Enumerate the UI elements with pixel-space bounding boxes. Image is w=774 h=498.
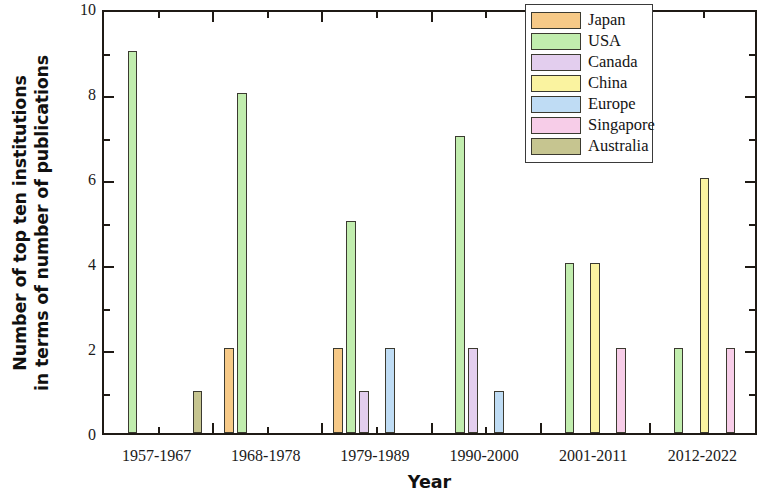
y-axis-tick bbox=[104, 351, 114, 353]
x-axis-tick-top bbox=[431, 12, 433, 22]
bar bbox=[674, 348, 684, 433]
legend-item: China bbox=[531, 73, 646, 94]
legend-swatch bbox=[531, 75, 581, 92]
legend-swatch bbox=[531, 33, 581, 50]
y-tick-label: 10 bbox=[68, 1, 96, 19]
x-tick-label: 1990-2000 bbox=[449, 447, 518, 465]
y-axis-tick-labels: 0246810 bbox=[62, 0, 96, 498]
y-axis-tick-right bbox=[745, 351, 755, 353]
x-axis-tick-top bbox=[485, 12, 487, 18]
x-axis-title: Year bbox=[102, 472, 757, 492]
y-axis-tick-right bbox=[749, 54, 755, 56]
y-axis-title: Number of top ten institutions in terms … bbox=[0, 0, 62, 445]
bar bbox=[128, 51, 138, 434]
y-axis-tick-right bbox=[745, 266, 755, 268]
bar bbox=[224, 348, 234, 433]
bar bbox=[237, 93, 247, 433]
legend-item: Japan bbox=[531, 10, 646, 31]
bar bbox=[590, 263, 600, 433]
x-tick-label: 2001-2011 bbox=[559, 447, 628, 465]
x-axis-tick-labels: 1957-19671968-19781979-19891990-20002001… bbox=[102, 447, 757, 471]
x-tick-label: 1979-1989 bbox=[340, 447, 409, 465]
legend-item: Europe bbox=[531, 94, 646, 115]
plot-area bbox=[102, 10, 757, 435]
bar bbox=[565, 263, 575, 433]
bar bbox=[700, 178, 710, 433]
y-axis-title-line1: Number of top ten institutions bbox=[9, 54, 31, 390]
bar bbox=[616, 348, 626, 433]
bar bbox=[385, 348, 395, 433]
y-axis-tick-right bbox=[745, 181, 755, 183]
y-tick-label: 6 bbox=[68, 171, 96, 189]
legend-swatch bbox=[531, 138, 581, 155]
legend-label: USA bbox=[588, 33, 621, 50]
x-axis-tick-top bbox=[212, 12, 214, 22]
y-axis-tick bbox=[104, 181, 114, 183]
x-axis-tick-top bbox=[376, 12, 378, 18]
legend: JapanUSACanadaChinaEuropeSingaporeAustra… bbox=[525, 4, 653, 163]
y-axis-tick-right bbox=[749, 139, 755, 141]
y-axis-tick bbox=[104, 224, 110, 226]
y-axis-tick-right bbox=[749, 224, 755, 226]
legend-label: Japan bbox=[588, 12, 626, 29]
legend-label: China bbox=[588, 75, 627, 92]
y-axis-tick bbox=[104, 54, 110, 56]
bar-chart-figure: Number of top ten institutions in terms … bbox=[0, 0, 774, 498]
legend-swatch bbox=[531, 96, 581, 113]
x-axis-tick-top bbox=[703, 12, 705, 18]
x-axis-tick-top bbox=[321, 12, 323, 22]
bar bbox=[494, 391, 504, 434]
plot-inner bbox=[104, 12, 755, 433]
x-axis-tick bbox=[431, 423, 433, 433]
x-axis-tick bbox=[649, 423, 651, 433]
legend-label: Australia bbox=[588, 138, 648, 155]
legend-item: Singapore bbox=[531, 115, 646, 136]
y-tick-label: 0 bbox=[68, 426, 96, 444]
y-axis-tick bbox=[104, 309, 110, 311]
bar bbox=[346, 221, 356, 434]
x-axis-tick bbox=[267, 427, 269, 433]
y-axis-tick-right bbox=[749, 309, 755, 311]
legend-item: Canada bbox=[531, 52, 646, 73]
x-tick-label: 1968-1978 bbox=[231, 447, 300, 465]
y-axis-title-line2: in terms of number of publications bbox=[31, 54, 53, 390]
legend-swatch bbox=[531, 12, 581, 29]
y-axis-tick bbox=[104, 96, 114, 98]
legend-item: USA bbox=[531, 31, 646, 52]
x-axis-tick bbox=[321, 423, 323, 433]
legend-label: Canada bbox=[588, 54, 637, 71]
bar bbox=[193, 391, 203, 434]
legend-swatch bbox=[531, 117, 581, 134]
bar bbox=[333, 348, 343, 433]
y-axis-tick bbox=[104, 139, 110, 141]
bar bbox=[468, 348, 478, 433]
bar bbox=[359, 391, 369, 434]
legend-swatch bbox=[531, 54, 581, 71]
x-axis-tick bbox=[158, 427, 160, 433]
x-axis-tick bbox=[485, 427, 487, 433]
x-tick-label: 1957-1967 bbox=[122, 447, 191, 465]
y-axis-tick bbox=[104, 266, 114, 268]
x-tick-label: 2012-2022 bbox=[668, 447, 737, 465]
legend-label: Singapore bbox=[588, 117, 655, 134]
x-axis-tick bbox=[212, 423, 214, 433]
y-tick-label: 8 bbox=[68, 86, 96, 104]
x-axis-tick bbox=[540, 423, 542, 433]
y-tick-label: 4 bbox=[68, 256, 96, 274]
y-axis-tick-right bbox=[749, 394, 755, 396]
y-axis-tick bbox=[104, 394, 110, 396]
bar bbox=[455, 136, 465, 434]
y-axis-tick-right bbox=[745, 96, 755, 98]
y-tick-label: 2 bbox=[68, 341, 96, 359]
x-axis-tick bbox=[376, 427, 378, 433]
bar bbox=[726, 348, 736, 433]
legend-label: Europe bbox=[588, 96, 636, 113]
x-axis-tick-top bbox=[158, 12, 160, 18]
x-axis-tick-top bbox=[267, 12, 269, 18]
legend-item: Australia bbox=[531, 136, 646, 157]
